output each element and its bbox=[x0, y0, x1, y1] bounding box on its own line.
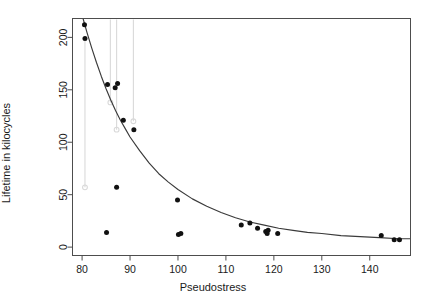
y-axis-label-text: Lifetime in kilocycles bbox=[0, 103, 12, 203]
x-axis-ticks: 8090100110120130140 bbox=[76, 256, 378, 275]
y-axis-ticks: 050100150200 bbox=[58, 28, 73, 250]
y-tick-label: 0 bbox=[58, 244, 70, 250]
plot-svg: 8090100110120130140 050100150200 bbox=[0, 0, 426, 306]
y-axis-label: Lifetime in kilocycles bbox=[0, 0, 14, 306]
data-point bbox=[266, 228, 271, 233]
data-point bbox=[105, 82, 110, 87]
data-point bbox=[397, 237, 402, 242]
data-point bbox=[121, 118, 126, 123]
data-point bbox=[82, 22, 87, 27]
x-tick-label: 90 bbox=[124, 263, 136, 275]
data-point bbox=[392, 237, 397, 242]
x-tick-label: 140 bbox=[361, 263, 379, 275]
data-point bbox=[131, 127, 136, 132]
data-point bbox=[255, 226, 260, 231]
data-point bbox=[113, 85, 118, 90]
data-points-layer bbox=[82, 22, 402, 242]
figure-canvas: 8090100110120130140 050100150200 Pseudos… bbox=[0, 0, 426, 306]
x-tick-label: 130 bbox=[313, 263, 331, 275]
data-point bbox=[115, 81, 120, 86]
y-tick-label: 150 bbox=[58, 81, 70, 99]
y-tick-label: 100 bbox=[58, 133, 70, 151]
data-point bbox=[178, 231, 183, 236]
x-tick-label: 120 bbox=[265, 263, 283, 275]
data-point bbox=[114, 185, 119, 190]
data-point bbox=[247, 220, 252, 225]
data-point bbox=[239, 223, 244, 228]
x-tick-label: 110 bbox=[218, 263, 235, 275]
x-axis-label: Pseudostress bbox=[0, 281, 426, 293]
x-tick-label: 100 bbox=[169, 263, 187, 275]
data-point bbox=[104, 230, 109, 235]
data-point bbox=[275, 231, 280, 236]
x-tick-label: 80 bbox=[76, 263, 88, 275]
y-tick-label: 50 bbox=[58, 189, 70, 201]
y-tick-label: 200 bbox=[58, 28, 70, 46]
data-point bbox=[82, 36, 87, 41]
data-point bbox=[379, 233, 384, 238]
data-point bbox=[175, 197, 180, 202]
